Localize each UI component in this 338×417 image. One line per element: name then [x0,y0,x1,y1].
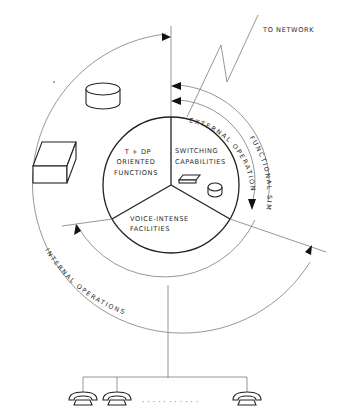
internal-operations-label: INTERNAL OPERATIONS [43,247,127,317]
speck [53,81,55,83]
tdp-line-2: ORIENTED [117,158,156,166]
switching-line-1: SWITCHING [175,147,218,155]
telephone-ellipsis: · · · · · · · · · · · [142,398,199,406]
arrowhead-ext-top [171,97,181,105]
switching-line-2: CAPABILITIES [175,158,226,166]
telephone-icon [233,392,261,405]
telephone-icon [103,392,131,405]
arrowhead-fsim [171,82,181,90]
voice-line-2: FACILITIES [130,225,170,233]
arrowhead-top [162,33,171,41]
small-card-icon [179,175,200,183]
network-link-zigzag [187,15,258,117]
arrowhead-right-lower [305,245,312,255]
telephone-icon [69,392,97,405]
box-terminal-icon [33,142,76,183]
sector-switching: SWITCHING CAPABILITIES [175,147,226,166]
sector-voice: VOICE-INTENSE FACILITIES [130,215,189,233]
sector-divider-left [112,185,171,219]
tdp-line-3: FUNCTIONS [114,169,158,177]
arrowhead-ext-bottom [248,199,256,210]
small-disk-icon [208,183,222,197]
voice-line-1: VOICE-INTENSE [130,215,189,223]
sector-tdp: T + DP ORIENTED FUNCTIONS [114,148,158,177]
tdp-line-1: T + DP [124,148,151,156]
system-diagram: TO NETWORK T + DP ORIENTED FUNCTIONS SWI… [0,0,338,417]
disk-cylinder-icon [86,83,120,109]
to-network-label: TO NETWORK [262,26,314,34]
left-extension-line [62,219,112,226]
